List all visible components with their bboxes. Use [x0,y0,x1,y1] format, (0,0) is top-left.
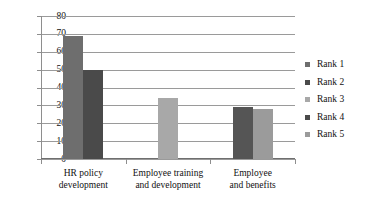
x-axis-label-line: development [41,180,126,192]
legend-item: Rank 4 [305,109,365,127]
y-axis-line [41,16,42,159]
bar [63,36,83,159]
x-axis-label-line: Employee training [126,168,211,180]
bar [158,98,178,159]
legend-item-label: Rank 5 [317,130,344,140]
bar [253,109,273,159]
legend-item-label: Rank 2 [317,78,344,88]
gridline-0 [41,159,295,160]
x-axis-category-label: Employeeand benefits [210,168,295,191]
x-tick-mark [210,159,211,164]
legend: Rank 1Rank 2Rank 3Rank 4Rank 5 [305,56,365,144]
x-axis-category-label: Employee trainingand development [126,168,211,191]
legend-swatch-icon [305,80,310,85]
x-tick-mark [295,159,296,164]
plot-frame [41,16,295,159]
x-axis-label-line: and development [126,180,211,192]
legend-item-label: Rank 4 [317,113,344,123]
legend-swatch-icon [305,115,310,120]
legend-item: Rank 3 [305,91,365,109]
bar-chart: 80706050403020100 HR policydevelopmentEm… [0,0,365,213]
x-axis-label-line: HR policy [41,168,126,180]
x-axis-category-label: HR policydevelopment [41,168,126,191]
bar [233,107,253,159]
plot-area [41,16,295,159]
legend-item: Rank 5 [305,126,365,144]
bar [83,70,103,159]
gridline-80 [41,16,295,17]
x-tick-mark [126,159,127,164]
legend-item-label: Rank 3 [317,95,344,105]
legend-item-label: Rank 1 [317,60,344,70]
legend-swatch-icon [305,97,310,102]
legend-swatch-icon [305,62,310,67]
legend-item: Rank 2 [305,74,365,92]
x-tick-mark [41,159,42,164]
x-axis-label-line: Employee [210,168,295,180]
legend-swatch-icon [305,132,310,137]
legend-item: Rank 1 [305,56,365,74]
x-axis-label-line: and benefits [210,180,295,192]
